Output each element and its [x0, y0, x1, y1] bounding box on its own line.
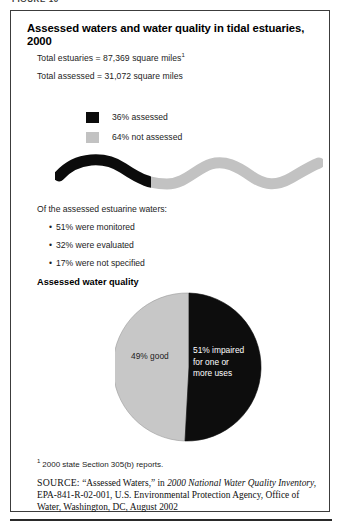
legend-label-not-assessed: 64% not assessed — [112, 131, 182, 144]
figure-container: Assessed waters and water quality in tid… — [10, 10, 330, 512]
footnote-text: 2000 state Section 305(b) reports. — [42, 460, 163, 469]
pie-label-good: 49% good — [131, 351, 169, 363]
wave-ribbon-chart — [55, 154, 323, 194]
source-part-1: “Assessed Waters,” in — [80, 478, 167, 488]
stat-total-estuaries: Total estuaries = 87,369 square miles1 — [37, 53, 185, 63]
page-title: Assessed waters and water quality in tid… — [27, 22, 323, 48]
list-item: •51% were monitored — [49, 222, 135, 232]
legend-swatch-assessed-icon — [86, 112, 99, 123]
stat-total-assessed: Total assessed = 31,072 square miles — [37, 71, 183, 81]
pie-slice-good — [115, 293, 189, 441]
bullet-dot-icon: • — [49, 258, 56, 268]
footnote-marker-inline: 1 — [181, 52, 184, 58]
figure-number-label: FIGURE 10 — [12, 0, 59, 3]
list-item-label: 17% were not specified — [56, 258, 145, 268]
bottom-divider — [10, 519, 332, 521]
list-item: •17% were not specified — [49, 258, 145, 268]
source-part-2: EPA-841-R-02-001, U.S. Environmental Pro… — [37, 490, 299, 512]
bullet-dot-icon: • — [49, 222, 56, 232]
pie-label-impaired: 51% impaired for one or more uses — [193, 345, 244, 380]
bullet-dot-icon: • — [49, 240, 56, 250]
section-subheading-water-quality: Assessed water quality — [37, 277, 139, 287]
list-item-label: 32% were evaluated — [56, 240, 134, 250]
source-keyword: SOURCE: — [37, 477, 80, 488]
footnote-marker: 1 — [37, 458, 40, 464]
source-italic-title: 2000 National Water Quality Inventory, — [167, 478, 316, 488]
legend-swatch-not-assessed-icon — [86, 132, 99, 143]
footnote: 12000 state Section 305(b) reports. — [37, 460, 163, 469]
list-item-label: 51% were monitored — [56, 222, 135, 232]
pie-chart: 49% good 51% impaired for one or more us… — [115, 292, 263, 442]
stat-total-estuaries-text: Total estuaries = 87,369 square miles — [37, 53, 181, 63]
legend-label-assessed: 36% assessed — [112, 111, 168, 124]
assessed-breakdown-intro: Of the assessed estuarine waters: — [37, 204, 167, 214]
source-citation: SOURCE: “Assessed Waters,” in 2000 Natio… — [37, 477, 323, 513]
list-item: •32% were evaluated — [49, 240, 134, 250]
